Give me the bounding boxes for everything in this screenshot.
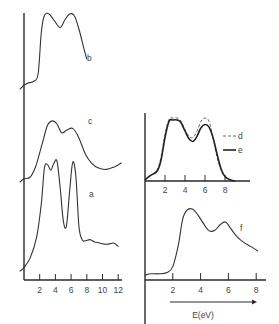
x-tick-label: 6 [69,285,74,295]
x-tick-label: 4 [183,185,188,195]
x-tick-label: 8 [254,285,259,295]
right-upper-x-ticks: 2468 [163,175,228,195]
x-tick-label: 4 [53,285,58,295]
figure: 24681012 b c a 2468 d e 2468 f E(eV) [0,0,279,324]
energy-arrow-head [252,300,257,305]
x-tick-label: 4 [198,285,203,295]
x-tick-label: 8 [84,285,89,295]
x-tick-label: 12 [113,285,123,295]
x-tick-label: 6 [203,185,208,195]
series-line-f [145,209,258,276]
left-curves [20,13,121,271]
series-label-f: f [240,223,243,233]
series-line-b [20,13,87,89]
right-upper-curves [145,118,235,181]
x-axis-title: E(eV) [192,310,214,320]
right-lower-x-ticks: 2468 [170,273,258,295]
x-tick-label: 10 [98,285,108,295]
legend-label-e: e [238,145,243,155]
series-label-a: a [89,189,94,199]
left-x-ticks: 24681012 [37,274,123,295]
series-line-c [20,121,121,182]
legend: d e [223,131,243,155]
legend-label-d: d [238,131,243,141]
x-tick-label: 2 [37,285,42,295]
x-tick-label: 6 [226,285,231,295]
x-tick-label: 8 [223,185,228,195]
series-line-e [145,120,235,182]
right-lower-curves [145,209,258,276]
series-line-a [20,160,118,271]
left-panel: 24681012 b c a [20,13,123,295]
series-label-b: b [87,53,92,63]
series-label-c: c [88,116,93,126]
x-tick-label: 2 [170,285,175,295]
x-tick-label: 2 [163,185,168,195]
right-lower-panel: 2468 f E(eV) [145,209,266,320]
